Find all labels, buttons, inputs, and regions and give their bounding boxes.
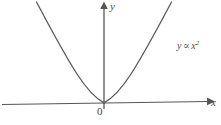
y-axis-arrowhead: [100, 2, 108, 10]
annotation-dependent-variable: y: [177, 40, 181, 51]
y-axis-label: y: [110, 1, 115, 12]
parabola-figure: y x 0 y∝x2: [0, 0, 221, 125]
proportional-to-symbol: ∝: [183, 40, 190, 51]
proportionality-annotation: y∝x2: [177, 40, 199, 51]
plot-canvas: [0, 0, 221, 125]
origin-label: 0: [97, 106, 103, 117]
annotation-exponent: 2: [196, 39, 200, 47]
x-axis-label: x: [211, 97, 216, 108]
